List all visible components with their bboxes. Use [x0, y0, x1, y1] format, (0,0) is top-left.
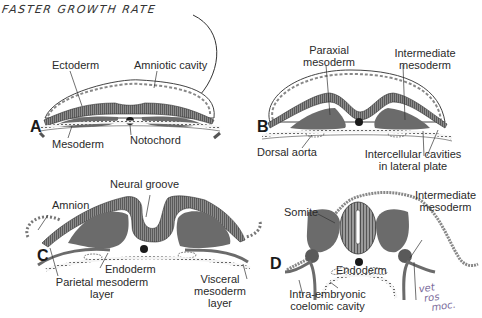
panel-c-letter: C: [37, 247, 49, 265]
label-cavities-line-2: in lateral plate: [353, 160, 473, 172]
label-amniotic-cavity: Amniotic cavity: [134, 59, 207, 71]
panel-a-letter: A: [30, 118, 42, 136]
label-visceral-line-1: Visceral: [190, 273, 250, 285]
label-intermediate-d-line-2: mesoderm: [408, 201, 482, 213]
label-notochord: Notochord: [130, 134, 181, 146]
handwritten-note: vet ros moc.: [418, 280, 456, 315]
panel-a-drawing: [40, 80, 220, 138]
label-paraxial-line-2: mesoderm: [298, 56, 360, 68]
label-intra-embryonic-coelom: Intra-embryonic coelomic cavity: [275, 288, 380, 312]
label-intercellular-cavities: Intercellular cavities in lateral plate: [353, 148, 473, 172]
label-intermediate-b-line-2: mesoderm: [385, 59, 465, 71]
panel-b-drawing: [262, 70, 452, 141]
handwritten-title: FASTER GROWTH RATE: [1, 3, 157, 16]
label-endoderm-d: Endoderm: [336, 264, 387, 276]
label-paraxial-mesoderm: Paraxial mesoderm: [298, 44, 360, 68]
label-mesoderm: Mesoderm: [52, 138, 104, 150]
label-ectoderm: Ectoderm: [52, 59, 99, 71]
panel-b-letter: B: [257, 118, 269, 136]
label-visceral-mesoderm: Visceral mesoderm layer: [190, 273, 250, 309]
label-visceral-line-2: mesoderm: [190, 285, 250, 297]
label-intermediate-mesoderm-d: Intermediate mesoderm: [408, 189, 482, 213]
label-parietal-line-1: Parietal mesoderm: [52, 276, 152, 288]
label-parietal-line-2: layer: [52, 288, 152, 300]
label-coelom-line-1: Intra-embryonic: [275, 288, 380, 300]
label-endoderm-c: Endoderm: [105, 263, 156, 275]
label-coelom-line-2: coelomic cavity: [275, 300, 380, 312]
label-visceral-line-3: layer: [190, 297, 250, 309]
label-intermediate-mesoderm-b: Intermediate mesoderm: [385, 47, 465, 71]
label-paraxial-line-1: Paraxial: [298, 44, 360, 56]
label-dorsal-aorta: Dorsal aorta: [257, 146, 317, 158]
label-intermediate-d-line-1: Intermediate: [408, 189, 482, 201]
label-cavities-line-1: Intercellular cavities: [353, 148, 473, 160]
label-intermediate-b-line-1: Intermediate: [385, 47, 465, 59]
label-parietal-mesoderm: Parietal mesoderm layer: [52, 276, 152, 300]
panel-d-letter: D: [270, 255, 282, 273]
label-amnion: Amnion: [52, 199, 89, 211]
label-neural-groove: Neural groove: [110, 178, 179, 190]
label-somite: Somite: [284, 206, 318, 218]
